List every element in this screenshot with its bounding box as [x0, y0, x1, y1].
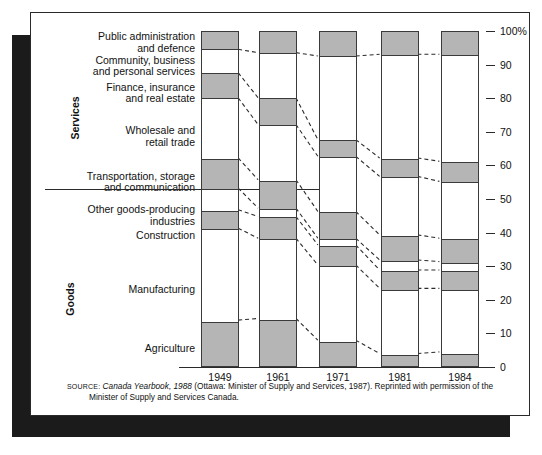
x-axis-year-label: 1961	[253, 371, 303, 383]
segment	[201, 189, 239, 211]
axis-tick	[486, 65, 495, 66]
segment	[259, 320, 297, 367]
source-label: SOURCE:	[67, 383, 100, 390]
segment	[319, 342, 357, 367]
segment	[259, 53, 297, 98]
axis-tick-label: 80	[500, 92, 512, 104]
segment	[319, 246, 357, 266]
x-axis-year-label: 1971	[313, 371, 363, 383]
segment	[441, 162, 479, 182]
segment	[381, 159, 419, 177]
source-note: SOURCE: Canada Yearbook, 1988 (Ottawa: M…	[67, 381, 497, 403]
segment	[259, 217, 297, 239]
axis-tick	[486, 367, 495, 368]
axis-tick	[486, 233, 495, 234]
x-axis-year-label: 1984	[435, 371, 485, 383]
bar-1961	[259, 31, 297, 367]
segment	[319, 266, 357, 342]
segment	[441, 263, 479, 271]
axis-tick-label: 100%	[500, 25, 527, 37]
axis-tick	[486, 266, 495, 267]
axis-tick-label: 60	[500, 159, 512, 171]
axis-tick	[486, 132, 495, 133]
segment	[201, 49, 239, 73]
segment	[201, 229, 239, 321]
axis-tick	[486, 31, 495, 32]
segment	[441, 182, 479, 239]
axis-tick-label: 50	[500, 193, 512, 205]
axis-tick	[486, 333, 495, 334]
segment	[381, 271, 419, 289]
segment	[319, 239, 357, 246]
segment	[441, 31, 479, 55]
segment	[319, 56, 357, 140]
segment	[259, 98, 297, 125]
segment	[259, 239, 297, 320]
segment	[319, 31, 357, 56]
axis-tick	[486, 165, 495, 166]
segment	[201, 98, 239, 158]
axis-tick-label: 0	[500, 361, 506, 373]
segment	[381, 236, 419, 261]
axis-tick	[486, 300, 495, 301]
x-axis-year-label: 1981	[375, 371, 425, 383]
segment	[259, 181, 297, 210]
segment	[201, 159, 239, 189]
segment	[259, 31, 297, 53]
segment	[201, 322, 239, 367]
segment	[201, 31, 239, 49]
segment	[381, 290, 419, 356]
segment	[319, 157, 357, 212]
bar-1981	[381, 31, 419, 367]
axis-tick	[486, 199, 495, 200]
axis-tick-label: 30	[500, 260, 512, 272]
figure-frame: Public administrationand defenceCommunit…	[30, 12, 530, 416]
segment	[201, 73, 239, 98]
bar-1971	[319, 31, 357, 367]
source-line2: Minister of Supply and Services Canada.	[89, 392, 497, 403]
segment	[441, 290, 479, 354]
segment	[381, 177, 419, 236]
axis-tick-label: 90	[500, 59, 512, 71]
axis-tick-label: 10	[500, 327, 512, 339]
segment	[441, 55, 479, 163]
axis-tick-label: 40	[500, 227, 512, 239]
segment	[381, 31, 419, 55]
segment	[441, 239, 479, 263]
segment	[259, 125, 297, 180]
axis-tick-label: 70	[500, 126, 512, 138]
segment	[441, 271, 479, 289]
axis-tick	[486, 98, 495, 99]
segment	[259, 209, 297, 217]
segment	[319, 140, 357, 157]
source-title: Canada Yearbook, 1988	[103, 381, 192, 391]
segment	[381, 355, 419, 367]
axis-tick-label: 20	[500, 294, 512, 306]
x-axis-baseline	[179, 367, 486, 368]
bar-1949	[201, 31, 239, 367]
segment	[381, 55, 419, 159]
segment	[201, 211, 239, 229]
segment	[319, 212, 357, 239]
segment	[381, 261, 419, 271]
bar-1984	[441, 31, 479, 367]
segment	[441, 354, 479, 367]
x-axis-year-label: 1949	[195, 371, 245, 383]
stacked-area-plot	[31, 13, 529, 415]
